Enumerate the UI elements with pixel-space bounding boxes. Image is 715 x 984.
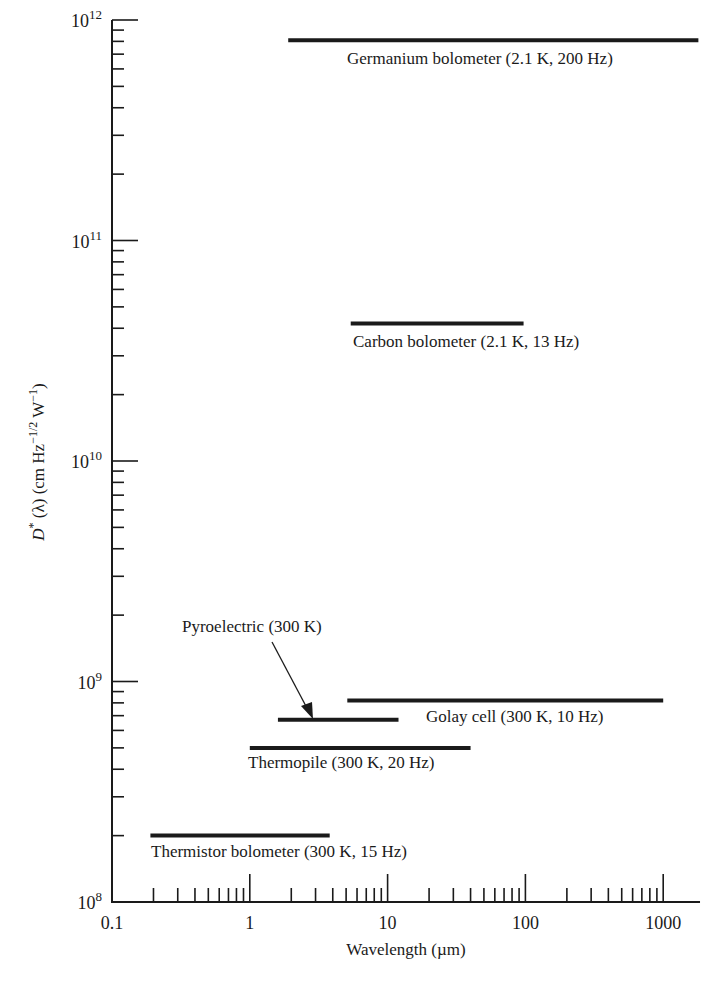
y-tick-label: 108 — [78, 889, 103, 913]
y-tick-label: 109 — [78, 669, 103, 693]
y-tick-label: 1012 — [71, 7, 102, 31]
x-axis-label: Wavelength (µm) — [346, 940, 465, 959]
pyroelectric-arrow — [272, 642, 313, 719]
axes: 0.11101001000108109101010111012 — [71, 7, 700, 933]
y-tick-label: 1010 — [71, 448, 102, 472]
x-tick-label: 1 — [245, 913, 254, 933]
label-germanium: Germanium bolometer (2.1 K, 200 Hz) — [347, 49, 613, 68]
detector-chart: 0.11101001000108109101010111012 Germaniu… — [0, 0, 715, 984]
label-thermistor: Thermistor bolometer (300 K, 15 Hz) — [151, 842, 407, 861]
x-tick-label: 10 — [379, 913, 397, 933]
label-carbon: Carbon bolometer (2.1 K, 13 Hz) — [353, 332, 579, 351]
y-tick-label: 1011 — [71, 228, 102, 252]
x-tick-label: 100 — [512, 913, 539, 933]
y-axis-label: D* (λ) (cm Hz−1/2 W−1) — [26, 383, 48, 541]
bars — [150, 40, 698, 835]
label-pyroelectric: Pyroelectric (300 K) — [182, 617, 322, 636]
label-golay: Golay cell (300 K, 10 Hz) — [426, 707, 604, 726]
x-tick-label: 1000 — [645, 913, 681, 933]
label-thermopile: Thermopile (300 K, 20 Hz) — [248, 753, 434, 772]
x-tick-label: 0.1 — [101, 913, 124, 933]
